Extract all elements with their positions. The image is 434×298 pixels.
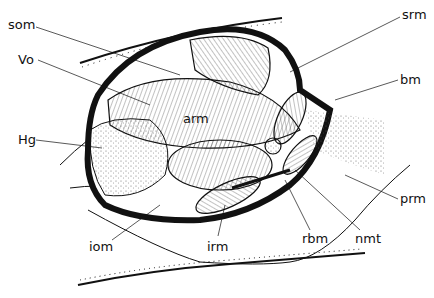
- label-som: som: [8, 18, 35, 31]
- label-iom: iom: [89, 240, 113, 253]
- label-prm: prm: [400, 192, 426, 205]
- label-hg: Hg: [18, 133, 36, 146]
- label-bm: bm: [400, 73, 421, 86]
- label-srm: srm: [402, 8, 427, 21]
- label-rbm: rbm: [302, 232, 328, 245]
- label-arm: arm: [183, 112, 209, 125]
- label-vo: Vo: [18, 53, 34, 66]
- label-nmt: nmt: [355, 232, 381, 245]
- shell-bottom-edge: [78, 249, 365, 285]
- siphon: [305, 110, 385, 175]
- label-irm: irm: [207, 240, 228, 253]
- nerve-ganglion: [265, 138, 281, 154]
